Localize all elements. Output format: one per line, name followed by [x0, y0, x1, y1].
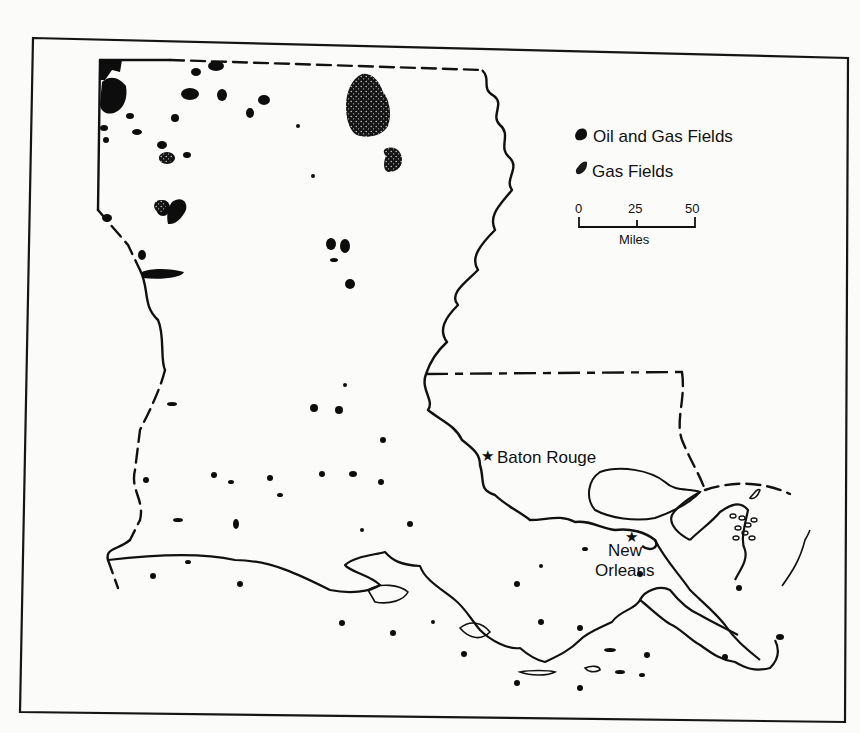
legend-label-oil-and-gas: Oil and Gas Fields	[593, 127, 733, 146]
legend-label-gas: Gas Fields	[592, 162, 673, 181]
oil-and-gas-legend-icon	[575, 129, 587, 141]
louisiana-oil-gas-map: Oil and Gas Fields Gas Fields 0 25 50 Mi…	[0, 0, 860, 733]
svg-text:New: New	[608, 541, 643, 560]
gulf-coastline	[108, 552, 778, 670]
mississippi-river-north	[426, 70, 513, 374]
svg-text:Orleans: Orleans	[595, 561, 655, 580]
legend: Oil and Gas Fields Gas Fields	[575, 127, 733, 181]
svg-text:50: 50	[685, 201, 699, 216]
scale-bar: 0 25 50 Miles	[575, 201, 699, 247]
lake-pontchartrain	[589, 469, 700, 520]
svg-text:Baton Rouge: Baton Rouge	[497, 448, 596, 467]
svg-text:25: 25	[628, 201, 642, 216]
svg-text:0: 0	[575, 201, 582, 216]
gas-fields-legend-icon	[576, 162, 587, 175]
city-baton-rouge: ★ Baton Rouge	[481, 447, 596, 467]
scale-unit: Miles	[619, 232, 650, 247]
city-new-orleans: ★ New Orleans	[595, 528, 655, 580]
star-icon: ★	[481, 447, 494, 464]
